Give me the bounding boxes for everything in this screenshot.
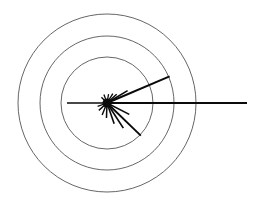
radial-plot-canvas bbox=[0, 0, 254, 205]
center-hub-marker bbox=[103, 99, 112, 108]
radial-plot-container bbox=[0, 0, 254, 205]
